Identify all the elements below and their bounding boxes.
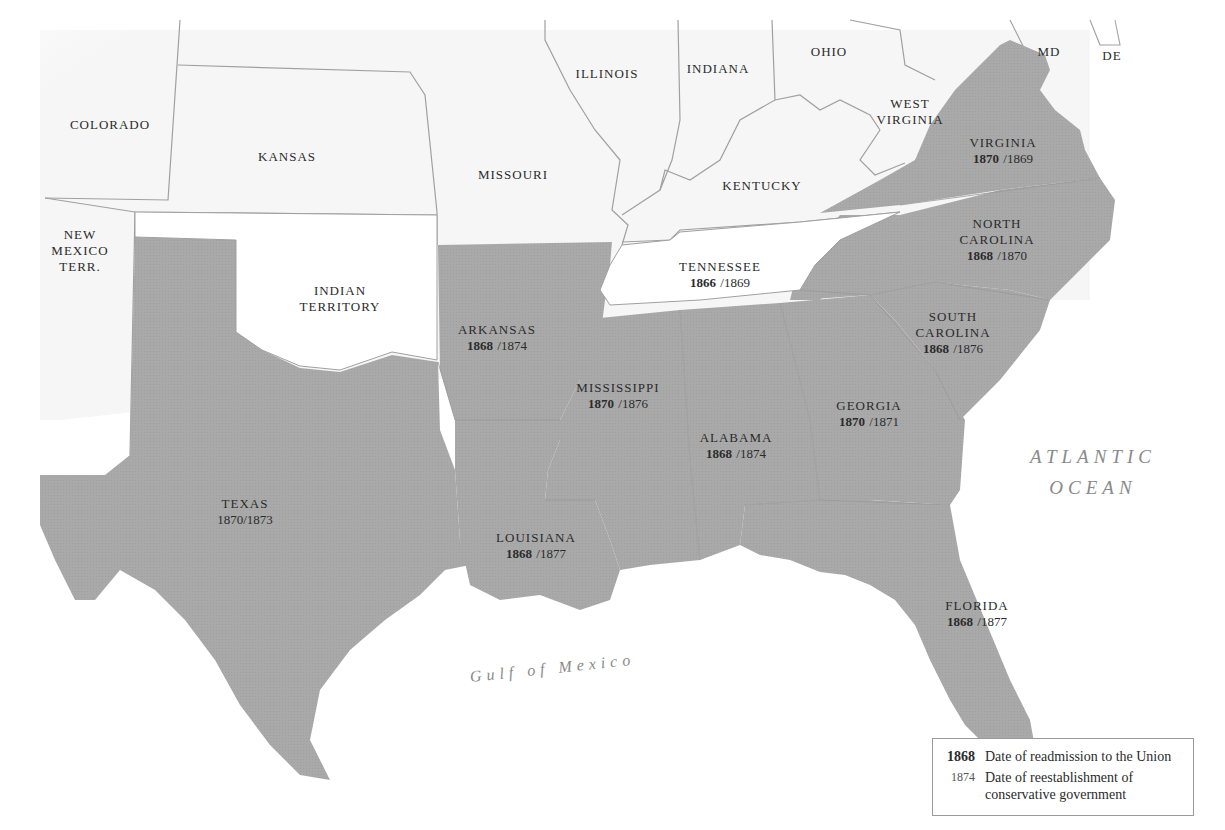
readmission-year: 1868 <box>467 338 493 353</box>
label-georgia: GEORGIA 1870 /1871 <box>836 398 902 430</box>
conservative-year: /1871 <box>869 414 899 429</box>
label-kansas: KANSAS <box>258 149 316 165</box>
label-md: MD <box>1038 44 1061 60</box>
label-indian-territory: INDIAN TERRITORY <box>300 283 381 315</box>
conservative-year: /1869 <box>1003 151 1033 166</box>
label-indiana: INDIANA <box>687 61 750 77</box>
readmission-year: 1870 <box>839 414 865 429</box>
legend-key-readmission: 1868 <box>933 748 985 765</box>
conservative-year: /1873 <box>243 512 273 527</box>
readmission-year: 1868 <box>947 614 973 629</box>
label-louisiana: LOUISIANA 1868 /1877 <box>496 530 576 562</box>
readmission-year: 1868 <box>506 546 532 561</box>
legend-row-readmission: 1868 Date of readmission to the Union <box>933 748 1193 765</box>
legend-row-conservative: 1874 Date of reestablishment of conserva… <box>933 769 1193 803</box>
legend-desc-readmission: Date of readmission to the Union <box>985 748 1193 765</box>
map-legend: 1868 Date of readmission to the Union 18… <box>932 738 1194 816</box>
label-florida: FLORIDA 1868 /1877 <box>945 598 1008 630</box>
label-south-carolina: SOUTH CAROLINA 1868 /1876 <box>915 309 990 357</box>
label-virginia: VIRGINIA 1870 /1869 <box>969 135 1036 167</box>
florida-shape <box>740 500 1040 775</box>
label-mississippi: MISSISSIPPI 1870 /1876 <box>576 380 659 412</box>
conservative-year: /1874 <box>736 446 766 461</box>
label-missouri: MISSOURI <box>478 167 548 183</box>
conservative-year: /1876 <box>618 396 648 411</box>
readmission-year: 1870 <box>588 396 614 411</box>
label-north-carolina: NORTH CAROLINA 1868 /1870 <box>959 216 1034 264</box>
conservative-year: /1877 <box>977 614 1007 629</box>
legend-desc-conservative: Date of reestablishment of conservative … <box>985 769 1193 803</box>
readmission-year: 1868 <box>706 446 732 461</box>
label-ohio: OHIO <box>811 44 848 60</box>
label-arkansas: ARKANSAS 1868 /1874 <box>458 322 536 354</box>
label-de: DE <box>1102 48 1121 64</box>
label-alabama: ALABAMA 1868 /1874 <box>700 430 773 462</box>
reconstruction-map <box>0 0 1225 830</box>
readmission-year: 1868 <box>967 248 993 263</box>
readmission-year: 1866 <box>690 275 716 290</box>
conservative-year: /1877 <box>536 546 566 561</box>
label-kentucky: KENTUCKY <box>722 178 802 194</box>
readmission-year: 1870 <box>217 512 243 527</box>
legend-key-conservative: 1874 <box>933 769 985 803</box>
label-colorado: COLORADO <box>70 117 150 133</box>
label-atlantic-ocean: ATLANTIC OCEAN <box>1030 441 1156 503</box>
label-illinois: ILLINOIS <box>576 66 639 82</box>
conservative-year: /1874 <box>497 338 527 353</box>
readmission-year: 1868 <box>923 341 949 356</box>
conservative-year: /1876 <box>953 341 983 356</box>
readmission-year: 1870 <box>973 151 999 166</box>
label-texas: TEXAS 1870/1873 <box>217 496 273 528</box>
conservative-year: /1870 <box>997 248 1027 263</box>
label-tennessee: TENNESSEE 1866 /1869 <box>679 259 761 291</box>
label-west-virginia: WEST VIRGINIA <box>876 96 943 128</box>
label-new-mexico-terr: NEW MEXICO TERR. <box>51 227 108 275</box>
conservative-year: /1869 <box>720 275 750 290</box>
